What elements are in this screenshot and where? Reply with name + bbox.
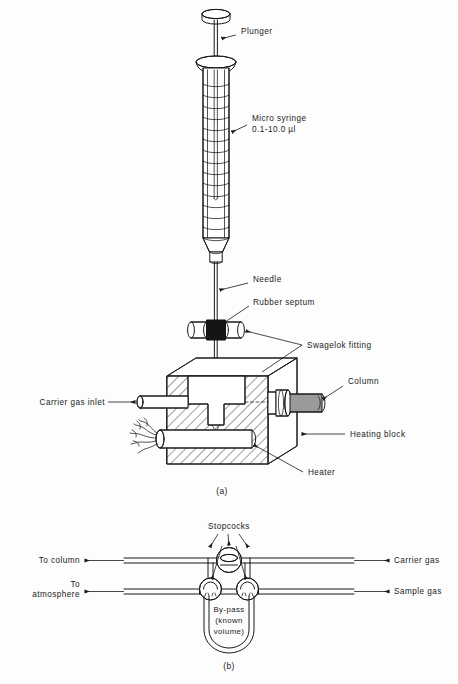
panel-a-syringe-assembly (130, 9, 325, 464)
carrier-gas-tube (137, 396, 188, 409)
syringe-barrel (203, 68, 229, 238)
label-bypass-line2: (known (215, 616, 243, 625)
label-stopcocks: Stopcocks (208, 522, 250, 531)
stopcock-right[interactable] (237, 578, 259, 600)
label-bypass-line1: By-pass (214, 605, 245, 614)
label-heater: Heater (308, 468, 335, 477)
label-microsyringe-line2: 0.1-10.0 µl (252, 125, 296, 134)
caption-panel-b: (b) (223, 661, 235, 671)
label-rubber-septum: Rubber septum (253, 298, 315, 307)
label-microsyringe-line1: Micro syringe (252, 114, 307, 123)
stopcock-left[interactable] (200, 578, 222, 600)
label-sample-gas: Sample gas (394, 587, 442, 596)
label-needle: Needle (253, 275, 282, 284)
label-carrier-gas-inlet: Carrier gas inlet (40, 398, 106, 407)
label-plunger: Plunger (241, 27, 272, 36)
label-heating-block: Heating block (350, 430, 406, 439)
label-carrier-gas: Carrier gas (394, 556, 439, 565)
rubber-septum (207, 320, 226, 340)
label-to-atmosphere-line2: atmosphere (32, 590, 80, 599)
panel-b-sampling-valve (124, 548, 354, 654)
label-to-atmosphere-line1: To (70, 580, 80, 589)
figure-root: Plunger Micro syringe 0.1-10.0 µl Needle… (0, 0, 458, 684)
label-swagelok-fitting: Swagelok fitting (307, 341, 372, 350)
panel-b-labels: Stopcocks To column To atmosphere Carrie… (32, 522, 442, 671)
syringe-tip (203, 238, 229, 264)
heater-lead-wires (130, 418, 157, 453)
caption-panel-a: (a) (216, 486, 228, 496)
technical-diagram-canvas: Plunger Micro syringe 0.1-10.0 µl Needle… (0, 0, 458, 684)
label-column: Column (348, 377, 379, 386)
heating-block (130, 358, 325, 464)
label-bypass-line3: volume) (214, 627, 245, 636)
label-to-column: To column (39, 556, 80, 565)
column-fitting (268, 390, 325, 416)
plunger-knob (202, 9, 230, 24)
